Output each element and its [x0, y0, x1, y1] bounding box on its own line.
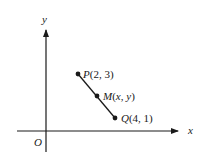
point-p-label: P(2, 3) — [82, 68, 114, 81]
x-axis-label: x — [187, 124, 193, 136]
point-q-label: Q(4, 1) — [121, 112, 153, 125]
point-m-label: M(x, y) — [102, 90, 135, 103]
point-m — [95, 94, 100, 99]
point-p-coords: (2, 3) — [90, 68, 114, 81]
point-q — [113, 116, 118, 121]
coordinate-diagram: y x O P(2, 3) M(x, y) Q(4, 1) — [0, 0, 214, 159]
y-axis-label: y — [41, 13, 47, 25]
origin-label: O — [34, 136, 42, 148]
point-p — [76, 72, 81, 77]
